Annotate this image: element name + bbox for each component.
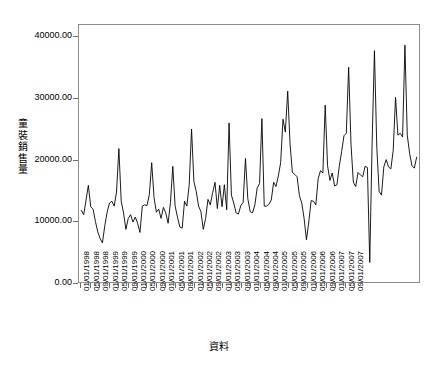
x-tick-mark: [316, 283, 317, 288]
x-tick-mark: [146, 283, 147, 288]
x-axis-title: 資料: [0, 341, 438, 353]
x-tick-mark: [165, 283, 166, 288]
x-tick-mark: [278, 283, 279, 288]
x-tick-mark: [222, 283, 223, 288]
y-tick-label: 0.00: [54, 278, 72, 287]
chart-container: 童裝銷售量 0.0010000.0020000.0030000.0040000.…: [0, 0, 438, 365]
y-tick-label: 40000.00: [34, 31, 72, 40]
x-tick-mark: [297, 283, 298, 288]
y-tick-label: 30000.00: [34, 93, 72, 102]
x-tick-mark: [231, 283, 232, 288]
series-line-sales: [79, 25, 419, 282]
x-tick-mark: [99, 283, 100, 288]
x-tick-mark: [128, 283, 129, 288]
x-tick-mark: [194, 283, 195, 288]
x-tick-mark: [307, 283, 308, 288]
x-tick-mark: [354, 283, 355, 288]
x-tick-mark: [326, 283, 327, 288]
x-tick-mark: [203, 283, 204, 288]
x-tick-mark: [345, 283, 346, 288]
x-tick-mark: [335, 283, 336, 288]
x-tick-mark: [212, 283, 213, 288]
y-tick-label: 20000.00: [34, 155, 72, 164]
x-tick-mark: [137, 283, 138, 288]
x-tick-mark: [109, 283, 110, 288]
x-tick-mark: [90, 283, 91, 288]
y-axis-title: 童裝銷售量: [16, 118, 29, 176]
x-tick-mark: [118, 283, 119, 288]
x-tick-mark: [260, 283, 261, 288]
x-tick-mark: [250, 283, 251, 288]
x-tick-mark: [184, 283, 185, 288]
x-tick-mark: [156, 283, 157, 288]
y-tick-label: 10000.00: [34, 216, 72, 225]
x-tick-mark: [175, 283, 176, 288]
y-tick-mark: [73, 283, 78, 284]
x-tick-mark: [288, 283, 289, 288]
plot-area: [78, 24, 420, 283]
x-tick-mark: [269, 283, 270, 288]
x-tick-mark: [241, 283, 242, 288]
x-tick-mark: [80, 283, 81, 288]
x-tick-label: 09/01/2007: [357, 251, 365, 291]
